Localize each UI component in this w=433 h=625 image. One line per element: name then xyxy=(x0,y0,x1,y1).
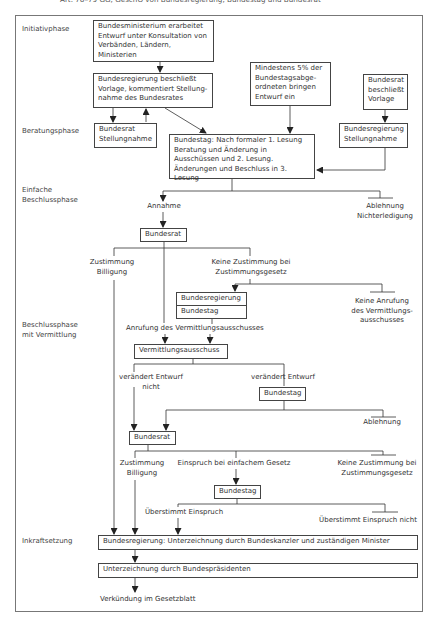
phase-einfach: EinfacheBeschlussphase xyxy=(22,185,78,205)
label-ueberstimmt-nicht: Überstimmt Einspruch nicht xyxy=(318,516,418,526)
box-bundesrat-stellungnahme: BundesratStellungnahme xyxy=(94,123,157,148)
label-keine-zustimmung-1: Keine Zustimmung beiZustimmungsgesetz xyxy=(203,258,299,277)
label-anrufung: Anrufung des Vermittlungsausschusses xyxy=(126,324,256,334)
box-bundesrat-vorlage: BundesratbeschließtVorlage xyxy=(363,74,408,110)
phase-initiativ: Initiativphase xyxy=(22,24,69,34)
box-bundesrat-2: Bundesrat xyxy=(129,431,176,445)
label-keine-zustimmung-2: Keine Zustimmung beiZustimmungsgesetz xyxy=(334,459,420,478)
label-veraendert-nicht: verändert Entwurfnicht xyxy=(116,373,186,392)
box-vermittlungsausschuss: Vermittlungsausschuss xyxy=(134,344,228,359)
box-bundestag-1: Bundestag xyxy=(176,305,247,319)
label-einspruch: Einspruch bei einfachem Gesetz xyxy=(174,459,294,469)
box-bundestag-3: Bundestag xyxy=(214,485,261,499)
label-ueberstimmt: Überstimmt Einspruch xyxy=(144,508,224,518)
box-bundestag-2: Bundestag xyxy=(259,387,306,401)
label-keine-anrufung: Keine Anrufungdes Vermittlungs-ausschuss… xyxy=(345,297,419,326)
box-bundesregierung-stellungnahme: BundesregierungStellungnahme xyxy=(339,123,408,148)
box-bundestag-lesung: Bundestag: Nach formaler 1. LesungBeratu… xyxy=(169,134,315,179)
label-veraendert: verändert Entwurf xyxy=(248,373,318,383)
label-ablehnung-2: Ablehnung xyxy=(360,418,404,428)
phase-vermittlung: Beschlussphasemit Vermittlung xyxy=(22,320,78,340)
label-annahme: Annahme xyxy=(145,202,183,212)
box-bundesministerium: Bundesministerium erarbeitetEntwurf unte… xyxy=(93,20,214,62)
box-bundesregierung: Bundesregierung xyxy=(176,292,247,306)
diagram-caption: Art. 76–79 GG, GeschO von Bundesregierun… xyxy=(60,0,321,4)
box-abgeordnete: Mindestens 5% derBundestagsabge-ordneten… xyxy=(250,62,331,106)
box-bundesrat-1: Bundesrat xyxy=(140,228,187,242)
label-ablehnung-1: AblehnungNichterledigung xyxy=(356,202,414,221)
box-bundesregierung-beschluss: Bundesregierung beschließtVorlage, komme… xyxy=(93,73,213,108)
label-zustimmung-1: ZustimmungBilligung xyxy=(85,258,139,277)
box-unterzeichnung-kanzler: Bundesregierung: Unterzeichnung durch Bu… xyxy=(98,535,418,550)
phase-inkraft: Inkraftsetzung xyxy=(22,536,73,546)
phase-beratung: Beratungsphase xyxy=(22,126,79,136)
label-verkuendung: Verkündung im Gesetzblatt xyxy=(100,595,195,605)
box-unterzeichnung-praesident: Unterzeichnung durch Bundespräsidenten xyxy=(98,563,418,578)
label-zustimmung-2: ZustimmungBilligung xyxy=(115,459,169,478)
